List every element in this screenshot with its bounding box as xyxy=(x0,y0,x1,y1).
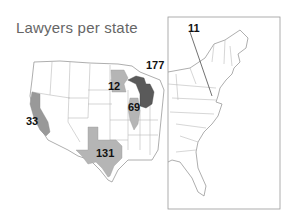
inset-frame xyxy=(168,17,280,209)
label-minnesota-value: 12 xyxy=(108,80,120,92)
label-illinois-value: 69 xyxy=(128,101,140,113)
label-texas-value: 131 xyxy=(96,147,114,159)
label-michigan-value: 177 xyxy=(146,59,164,71)
state-california[interactable] xyxy=(30,92,50,136)
label-california-value: 33 xyxy=(26,115,38,127)
label-inset-value: 11 xyxy=(188,22,200,34)
us-map: 11 33 131 12 69 177 xyxy=(0,0,294,221)
